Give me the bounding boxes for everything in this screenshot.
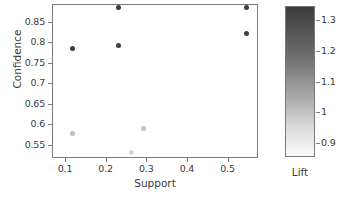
y-tick-mark — [48, 124, 52, 125]
data-point — [116, 5, 121, 10]
x-tick-label: 0.2 — [91, 163, 121, 174]
colorbar-tick-mark — [316, 112, 320, 113]
x-tick-label: 0.4 — [172, 163, 202, 174]
plot-area — [52, 4, 258, 158]
y-tick-mark — [48, 22, 52, 23]
y-tick-mark — [48, 42, 52, 43]
colorbar-tick-label: 1 — [321, 106, 327, 117]
data-point — [70, 131, 75, 136]
x-tick-mark — [146, 158, 147, 162]
colorbar-title: Lift — [283, 166, 317, 178]
colorbar-tick-label: 1.3 — [321, 14, 336, 25]
x-tick-label: 0.5 — [213, 163, 243, 174]
x-tick-label: 0.1 — [50, 163, 80, 174]
y-axis-title: Confidence — [11, 14, 23, 104]
colorbar-tick-mark — [316, 82, 320, 83]
x-tick-label: 0.3 — [131, 163, 161, 174]
scatter-plot-figure: 0.10.20.30.40.5 0.850.80.750.70.650.60.5… — [0, 0, 342, 204]
data-point — [244, 5, 249, 10]
x-tick-mark — [106, 158, 107, 162]
data-point — [244, 31, 249, 36]
x-tick-mark — [65, 158, 66, 162]
y-tick-mark — [48, 83, 52, 84]
y-tick-label: 0.6 — [0, 118, 45, 129]
data-point — [70, 46, 75, 51]
x-axis-title: Support — [52, 177, 258, 189]
y-tick-mark — [48, 145, 52, 146]
data-point — [129, 150, 134, 155]
data-point — [141, 126, 146, 131]
x-tick-mark — [228, 158, 229, 162]
colorbar-tick-mark — [316, 51, 320, 52]
colorbar-tick-mark — [316, 143, 320, 144]
y-tick-mark — [48, 63, 52, 64]
data-point — [116, 43, 121, 48]
colorbar-tick-label: 1.2 — [321, 45, 336, 56]
colorbar-tick-label: 1.1 — [321, 76, 336, 87]
colorbar-gradient — [286, 7, 314, 156]
y-tick-mark — [48, 104, 52, 105]
y-tick-label: 0.55 — [0, 139, 45, 150]
colorbar-tick-label: 0.9 — [321, 137, 336, 148]
colorbar-tick-mark — [316, 20, 320, 21]
x-tick-mark — [187, 158, 188, 162]
colorbar — [285, 6, 315, 157]
